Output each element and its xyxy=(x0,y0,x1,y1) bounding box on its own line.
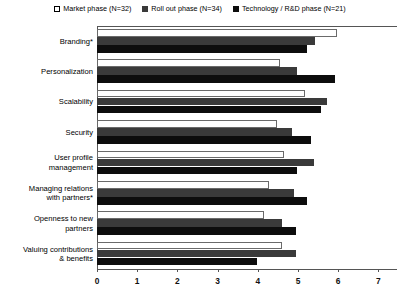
x-tick-mark xyxy=(378,269,379,272)
bar xyxy=(97,120,277,128)
bar xyxy=(97,90,305,98)
bar-group xyxy=(0,88,400,118)
chart-legend: Market phase (N=32)Roll out phase (N=34)… xyxy=(0,4,400,13)
legend-label: Technology / R&D phase (N=21) xyxy=(242,4,346,13)
x-tick-mark xyxy=(97,269,98,272)
bar xyxy=(97,106,321,114)
gray-square-icon xyxy=(142,6,148,12)
legend-item: Roll out phase (N=34) xyxy=(142,4,222,13)
x-tick-label: 0 xyxy=(87,276,107,286)
bar xyxy=(97,258,257,266)
legend-label: Market phase (N=32) xyxy=(63,4,131,13)
bar xyxy=(97,75,335,83)
bar xyxy=(97,159,314,167)
white-square-icon xyxy=(54,6,60,12)
x-tick-label: 5 xyxy=(288,276,308,286)
bar-group xyxy=(0,118,400,148)
x-tick-label: 3 xyxy=(208,276,228,286)
x-tick-mark xyxy=(137,269,138,272)
bar-group xyxy=(0,149,400,179)
bar xyxy=(97,98,327,106)
x-tick-mark xyxy=(338,269,339,272)
bar xyxy=(97,197,307,205)
bar xyxy=(97,136,311,144)
bar xyxy=(97,45,307,53)
horizontal-bar-chart: Market phase (N=32)Roll out phase (N=34)… xyxy=(0,0,400,305)
x-tick-label: 1 xyxy=(127,276,147,286)
x-tick-mark xyxy=(177,269,178,272)
bar xyxy=(97,219,282,227)
bar xyxy=(97,59,280,67)
x-tick-label: 6 xyxy=(328,276,348,286)
legend-item: Market phase (N=32) xyxy=(54,4,131,13)
x-tick-label: 4 xyxy=(248,276,268,286)
bar xyxy=(97,242,282,250)
bar xyxy=(97,250,296,258)
x-tick-mark xyxy=(258,269,259,272)
legend-label: Roll out phase (N=34) xyxy=(151,4,222,13)
black-square-icon xyxy=(233,6,239,12)
bar xyxy=(97,29,337,37)
bar xyxy=(97,189,294,197)
bar xyxy=(97,37,315,45)
x-tick-label: 2 xyxy=(167,276,187,286)
x-tick-mark xyxy=(298,269,299,272)
legend-item: Technology / R&D phase (N=21) xyxy=(233,4,346,13)
bar-group xyxy=(0,179,400,209)
x-tick-label: 7 xyxy=(368,276,388,286)
bar xyxy=(97,167,297,175)
bar-group xyxy=(0,27,400,57)
x-tick-mark xyxy=(218,269,219,272)
bar-group xyxy=(0,209,400,239)
bar xyxy=(97,227,296,235)
bar xyxy=(97,181,269,189)
bar-group xyxy=(0,57,400,87)
bar xyxy=(97,67,297,75)
bar xyxy=(97,151,284,159)
bar xyxy=(97,211,264,219)
bar-group xyxy=(0,240,400,270)
bar xyxy=(97,128,292,136)
